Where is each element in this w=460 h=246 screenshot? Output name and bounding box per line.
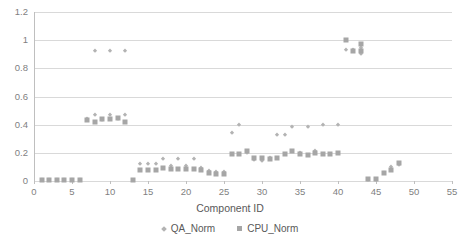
data-point-cpu_norm — [54, 178, 59, 183]
data-point-qa_norm — [161, 157, 166, 162]
data-point-qa_norm — [237, 122, 242, 127]
data-point-qa_norm — [92, 49, 97, 54]
data-point-cpu_norm — [358, 49, 363, 54]
gridline — [34, 40, 452, 41]
scatter-chart: 00.20.40.60.811.2 0510152025303540455055… — [0, 0, 460, 246]
legend-item-cpu_norm[interactable]: CPU_Norm — [237, 223, 298, 234]
y-axis-tick-label: 0.2 — [0, 148, 28, 158]
data-point-qa_norm — [305, 124, 310, 129]
data-point-cpu_norm — [222, 171, 227, 176]
x-axis-tick-mark — [300, 181, 301, 184]
data-point-cpu_norm — [260, 156, 265, 161]
data-point-cpu_norm — [229, 152, 234, 157]
x-axis-tick-label: 40 — [323, 187, 353, 197]
y-axis-tick-label: 1.2 — [0, 7, 28, 17]
data-point-cpu_norm — [381, 170, 386, 175]
data-point-cpu_norm — [176, 167, 181, 172]
x-axis-tick-mark — [338, 181, 339, 184]
data-point-cpu_norm — [123, 119, 128, 124]
x-axis-tick-label: 10 — [95, 187, 125, 197]
data-point-qa_norm — [138, 162, 143, 167]
data-point-cpu_norm — [305, 152, 310, 157]
data-point-cpu_norm — [161, 166, 166, 171]
x-axis-tick-mark — [148, 181, 149, 184]
data-point-cpu_norm — [244, 149, 249, 154]
y-axis-tick-label: 0.4 — [0, 120, 28, 130]
data-point-cpu_norm — [138, 167, 143, 172]
legend-label: CPU_Norm — [247, 223, 298, 234]
x-axis-tick-label: 50 — [399, 187, 429, 197]
data-point-cpu_norm — [351, 49, 356, 54]
plot-area — [34, 12, 452, 181]
data-point-cpu_norm — [130, 178, 135, 183]
x-axis-tick-label: 30 — [247, 187, 277, 197]
x-axis-tick-label: 25 — [209, 187, 239, 197]
x-axis-tick-label: 0 — [19, 187, 49, 197]
data-point-qa_norm — [275, 132, 280, 137]
legend-item-qa_norm[interactable]: QA_Norm — [162, 223, 215, 234]
x-axis-title: Component ID — [0, 202, 460, 214]
x-axis-tick-label: 35 — [285, 187, 315, 197]
data-point-cpu_norm — [39, 178, 44, 183]
data-point-cpu_norm — [146, 168, 151, 173]
gridline — [34, 181, 452, 182]
data-point-qa_norm — [146, 162, 151, 167]
gridline — [34, 12, 452, 13]
gridline — [34, 153, 452, 154]
y-axis-tick-label: 1 — [0, 35, 28, 45]
data-point-cpu_norm — [199, 167, 204, 172]
gridline — [34, 97, 452, 98]
x-axis-tick-mark — [262, 181, 263, 184]
data-point-cpu_norm — [184, 167, 189, 172]
data-point-cpu_norm — [85, 118, 90, 123]
x-axis-tick-mark — [452, 181, 453, 184]
data-point-cpu_norm — [77, 178, 82, 183]
data-point-qa_norm — [123, 112, 128, 117]
data-point-cpu_norm — [191, 167, 196, 172]
data-point-cpu_norm — [100, 117, 105, 122]
x-axis-tick-label: 55 — [437, 187, 460, 197]
data-point-cpu_norm — [275, 155, 280, 160]
data-point-cpu_norm — [237, 151, 242, 156]
data-point-cpu_norm — [374, 176, 379, 181]
data-point-qa_norm — [320, 122, 325, 127]
data-point-cpu_norm — [108, 117, 113, 122]
data-point-qa_norm — [343, 48, 348, 53]
data-point-cpu_norm — [267, 157, 272, 162]
x-axis-tick-label: 20 — [171, 187, 201, 197]
y-axis-tick-label: 0.8 — [0, 63, 28, 73]
data-point-cpu_norm — [282, 151, 287, 156]
data-point-cpu_norm — [366, 176, 371, 181]
data-point-qa_norm — [92, 112, 97, 117]
y-axis-tick-label: 0 — [0, 176, 28, 186]
data-point-cpu_norm — [168, 167, 173, 172]
data-point-cpu_norm — [320, 151, 325, 156]
data-point-cpu_norm — [47, 178, 52, 183]
data-point-cpu_norm — [343, 38, 348, 43]
data-point-cpu_norm — [328, 151, 333, 156]
data-point-cpu_norm — [389, 168, 394, 173]
data-point-cpu_norm — [206, 171, 211, 176]
diamond-marker-icon — [161, 226, 167, 232]
data-point-cpu_norm — [115, 115, 120, 120]
data-point-cpu_norm — [298, 151, 303, 156]
data-point-cpu_norm — [313, 150, 318, 155]
data-point-qa_norm — [336, 122, 341, 127]
data-point-qa_norm — [176, 157, 181, 162]
x-axis-tick-mark — [186, 181, 187, 184]
x-axis-tick-label: 15 — [133, 187, 163, 197]
data-point-qa_norm — [229, 131, 234, 136]
y-axis-line — [34, 12, 35, 181]
data-point-cpu_norm — [396, 160, 401, 165]
x-axis-tick-mark — [34, 181, 35, 184]
data-point-cpu_norm — [153, 168, 158, 173]
data-point-cpu_norm — [70, 178, 75, 183]
data-point-cpu_norm — [214, 171, 219, 176]
chart-legend: QA_NormCPU_Norm — [0, 223, 460, 234]
gridline — [34, 125, 452, 126]
data-point-cpu_norm — [92, 119, 97, 124]
y-axis-tick-label: 0.6 — [0, 92, 28, 102]
square-marker-icon — [237, 226, 242, 231]
data-point-qa_norm — [282, 132, 287, 137]
x-axis-tick-mark — [224, 181, 225, 184]
